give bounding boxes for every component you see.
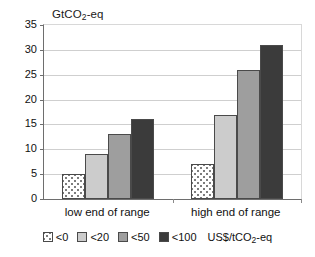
legend-item-lt50[interactable]: <50 — [118, 231, 150, 243]
legend-label: <20 — [90, 231, 109, 243]
bar-high-end-of-range-lt100 — [260, 45, 283, 199]
bar-low-end-of-range-lt20 — [85, 154, 108, 199]
legend-swatch-icon — [159, 232, 169, 242]
y-axis-title: GtCO2-eq — [52, 8, 104, 20]
legend-swatch-icon — [43, 232, 53, 242]
x-axis-group-label: low end of range — [65, 206, 150, 218]
y-axis-tick-label: 0 — [3, 192, 37, 204]
y-axis-title-pre: GtCO — [52, 8, 82, 20]
bar-high-end-of-range-lt20 — [214, 115, 237, 200]
y-axis-tick-mark — [40, 75, 44, 76]
y-axis-tick-mark — [40, 25, 44, 26]
legend-swatch-icon — [77, 232, 87, 242]
x-axis-tick-mark — [301, 199, 302, 203]
legend-item-lt100[interactable]: <100 — [159, 231, 197, 243]
bar-low-end-of-range-lt0 — [62, 174, 85, 199]
legend-swatch-icon — [118, 232, 128, 242]
bar-chart: GtCO2-eq 05101520253035 low end of range… — [0, 0, 315, 257]
legend-item-lt20[interactable]: <20 — [77, 231, 109, 243]
bar-high-end-of-range-lt50 — [237, 70, 260, 199]
legend-unit-label: US$/tCO2-eq — [208, 231, 273, 243]
y-axis-tick-label: 30 — [3, 43, 37, 55]
legend-unit-sub: 2 — [252, 235, 257, 245]
legend-label: <100 — [172, 231, 197, 243]
legend-label: <50 — [131, 231, 150, 243]
y-axis-tick-label: 35 — [3, 18, 37, 30]
y-axis-tick-mark — [40, 50, 44, 51]
y-axis-tick-mark — [40, 124, 44, 125]
y-axis-tick-label: 20 — [3, 93, 37, 105]
y-axis-tick-label: 15 — [3, 117, 37, 129]
x-axis-group-label: high end of range — [191, 206, 281, 218]
y-axis-title-sub: 2 — [82, 12, 87, 22]
y-axis-title-post: -eq — [87, 8, 104, 20]
y-axis-tick-label: 10 — [3, 142, 37, 154]
x-axis-tick-mark — [173, 199, 174, 203]
y-axis-tick-mark — [40, 149, 44, 150]
y-axis-tick-label: 5 — [3, 167, 37, 179]
bar-high-end-of-range-lt0 — [191, 164, 214, 199]
legend-label: <0 — [56, 231, 69, 243]
bar-low-end-of-range-lt100 — [131, 119, 154, 199]
y-axis-tick-label: 25 — [3, 68, 37, 80]
legend-unit-pre: US$/tCO — [208, 231, 252, 243]
y-axis-tick-mark — [40, 100, 44, 101]
legend-item-lt0[interactable]: <0 — [43, 231, 69, 243]
chart-legend: <0<20<50<100US$/tCO2-eq — [0, 231, 315, 243]
legend-unit-post: -eq — [256, 231, 272, 243]
plot-area — [43, 24, 302, 199]
y-axis-tick-mark — [40, 199, 44, 200]
y-axis-tick-mark — [40, 174, 44, 175]
bar-low-end-of-range-lt50 — [108, 134, 131, 199]
